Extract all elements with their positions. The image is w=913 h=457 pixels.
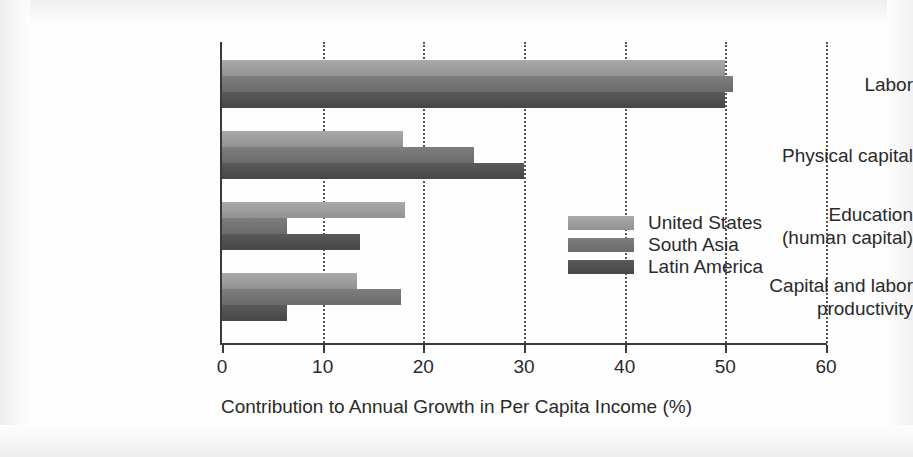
x-axis-tick-label: 20 bbox=[413, 356, 434, 378]
bar bbox=[222, 218, 287, 234]
x-axis-tick-label: 50 bbox=[715, 356, 736, 378]
bar bbox=[222, 289, 401, 305]
category-label-line: productivity bbox=[698, 297, 913, 320]
page-scan-edge-bottom bbox=[0, 425, 913, 457]
legend-swatch bbox=[568, 216, 634, 230]
category-label: Physical capital bbox=[698, 144, 913, 167]
x-axis-tick bbox=[423, 345, 425, 353]
category-label-line: Physical capital bbox=[698, 144, 913, 167]
page-scan-edge-left bbox=[0, 0, 30, 457]
x-axis-tick bbox=[826, 345, 828, 353]
legend-swatch bbox=[568, 238, 634, 252]
x-axis-tick-label: 60 bbox=[815, 356, 836, 378]
x-axis-title: Contribution to Annual Growth in Per Cap… bbox=[0, 396, 913, 418]
x-axis-tick-label: 0 bbox=[217, 356, 228, 378]
bar bbox=[222, 147, 474, 163]
x-axis-tick bbox=[725, 345, 727, 353]
x-axis-tick-label: 10 bbox=[312, 356, 333, 378]
bar bbox=[222, 76, 733, 92]
bar bbox=[222, 131, 403, 147]
bar bbox=[222, 234, 360, 250]
category-label: Labor bbox=[698, 73, 913, 96]
x-axis-tick-label: 30 bbox=[513, 356, 534, 378]
bar bbox=[222, 273, 357, 289]
category-label: Capital and laborproductivity bbox=[698, 274, 913, 320]
legend-label: Latin America bbox=[648, 256, 763, 278]
legend-item[interactable]: South Asia bbox=[568, 234, 763, 256]
x-axis-tick bbox=[222, 345, 224, 353]
category-label-line: Labor bbox=[698, 73, 913, 96]
legend-item[interactable]: United States bbox=[568, 212, 763, 234]
x-axis-tick bbox=[323, 345, 325, 353]
legend: United StatesSouth AsiaLatin America bbox=[568, 212, 763, 278]
legend-label: United States bbox=[648, 212, 762, 234]
bar bbox=[222, 92, 725, 108]
chart-figure: 0102030405060 LaborPhysical capitalEduca… bbox=[0, 0, 913, 457]
x-axis-tick bbox=[625, 345, 627, 353]
legend-swatch bbox=[568, 260, 634, 274]
bar bbox=[222, 202, 405, 218]
bar bbox=[222, 163, 524, 179]
bar bbox=[222, 305, 287, 321]
bar bbox=[222, 60, 725, 76]
legend-label: South Asia bbox=[648, 234, 739, 256]
legend-item[interactable]: Latin America bbox=[568, 256, 763, 278]
y-axis-line bbox=[220, 42, 222, 345]
x-axis-tick bbox=[524, 345, 526, 353]
x-axis-tick-label: 40 bbox=[614, 356, 635, 378]
page-scan-edge-top bbox=[0, 0, 913, 26]
